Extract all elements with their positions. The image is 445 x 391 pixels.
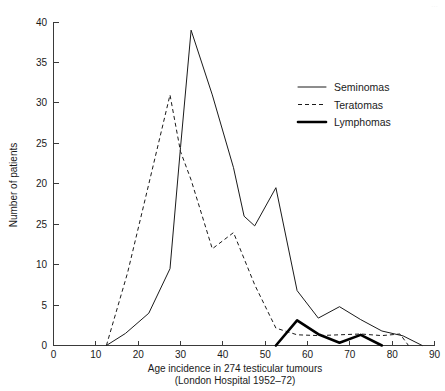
- data-series: [106, 30, 422, 345]
- y-tick-label-20: 20: [36, 178, 48, 189]
- x-tick-label-40: 40: [217, 349, 229, 360]
- series-line-seminomas: [106, 30, 422, 345]
- figure-container: … 0 5 10 25 20 25 30 35 40: [0, 0, 445, 391]
- y-tick-label-35: 35: [36, 57, 48, 68]
- legend-item-seminomas: Seminomas: [298, 81, 389, 93]
- legend: Seminomas Teratomas Lymphomas: [298, 81, 391, 128]
- legend-item-lymphomas: Lymphomas: [298, 116, 391, 128]
- page-mark: …: [431, 1, 439, 8]
- y-tick-label-40: 40: [36, 17, 48, 28]
- y-tick-label-0: 0: [41, 340, 47, 351]
- y-axis-ticks: 0 5 10 25 20 25 30 35 40: [36, 17, 59, 351]
- x-tick-label-30: 30: [175, 349, 187, 360]
- legend-label-teratomas: Teratomas: [334, 99, 383, 111]
- legend-label-lymphomas: Lymphomas: [334, 116, 391, 128]
- y-tick-label-30: 30: [36, 97, 48, 108]
- x-tick-label-20: 20: [133, 349, 145, 360]
- x-tick-label-0: 0: [51, 349, 57, 360]
- x-axis-title-line1: Age incidence in 274 testicular tumours: [148, 363, 323, 374]
- y-tick-label-15: 25: [36, 219, 48, 230]
- x-tick-label-80: 80: [387, 349, 399, 360]
- x-axis-title-line2: (London Hospital 1952–72): [175, 375, 296, 386]
- line-chart: 0 5 10 25 20 25 30 35 40 0 10 20 30: [0, 0, 445, 391]
- x-tick-label-60: 60: [302, 349, 314, 360]
- series-line-lymphomas: [276, 320, 382, 345]
- legend-item-teratomas: Teratomas: [298, 99, 383, 111]
- y-tick-label-25: 25: [36, 138, 48, 149]
- y-tick-label-10: 10: [36, 259, 48, 270]
- x-tick-label-50: 50: [260, 349, 272, 360]
- x-tick-label-10: 10: [90, 349, 102, 360]
- x-tick-label-90: 90: [429, 349, 441, 360]
- x-tick-label-70: 70: [344, 349, 356, 360]
- y-tick-label-5: 5: [41, 300, 47, 311]
- y-axis-title: Number of patients: [8, 143, 19, 228]
- axes: [54, 22, 435, 346]
- legend-label-seminomas: Seminomas: [334, 81, 389, 93]
